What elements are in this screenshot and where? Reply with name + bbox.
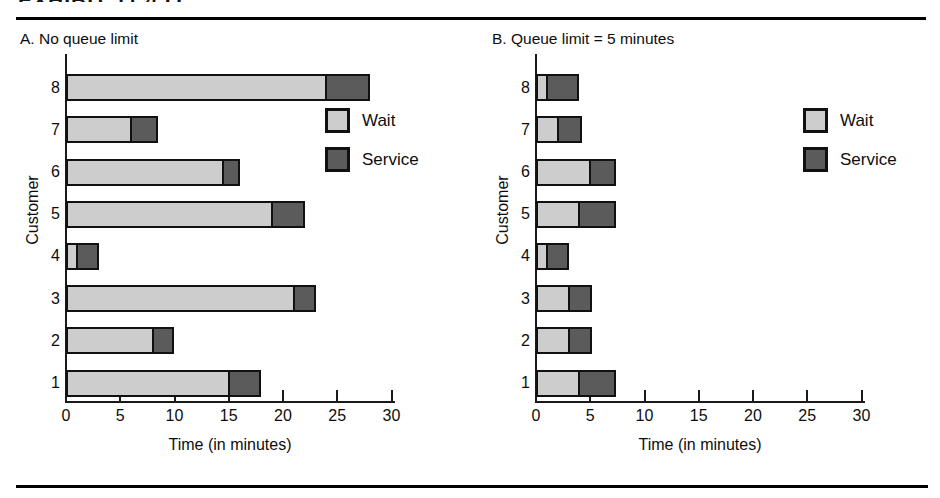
panel-a-x-tick-label-15: 15 [220, 407, 238, 425]
wait-swatch-icon [325, 108, 350, 133]
panel-a-service-segment-customer-2 [153, 327, 175, 354]
panel-b-service-segment-customer-4 [547, 243, 569, 270]
panel-b-service-segment-customer-7 [558, 116, 582, 143]
panel-a-x-tick-label-30: 30 [383, 407, 401, 425]
panel-b-wait-segment-customer-7 [536, 116, 558, 143]
panel-b-bar-row-customer-3 [470, 285, 870, 312]
header-text-fragment: EXHIBIT 11.4 Q [18, 0, 183, 2]
panel-a-x-tick-label-25: 25 [328, 407, 346, 425]
panel-b-wait-segment-customer-1 [536, 370, 579, 397]
service-swatch-icon [325, 147, 350, 172]
panel-b-legend-label-service: Service [840, 150, 897, 170]
panel-a-wait-segment-customer-6 [66, 159, 223, 186]
panel-a-x-tick-label-20: 20 [274, 407, 292, 425]
panel-b-bar-row-customer-5 [470, 201, 870, 228]
panel-a-service-segment-customer-3 [294, 285, 316, 312]
footer-divider-rule [16, 485, 928, 488]
panel-a-service-segment-customer-1 [229, 370, 262, 397]
panel-a-service-segment-customer-7 [131, 116, 158, 143]
panel-b-legend-label-wait: Wait [840, 111, 873, 131]
panel-a-x-axis-title: Time (in minutes) [65, 436, 395, 454]
panel-b-wait-segment-customer-3 [536, 285, 569, 312]
wait-swatch-icon [803, 108, 828, 133]
header-divider-rule [16, 17, 926, 20]
panel-b-service-segment-customer-8 [547, 74, 580, 101]
panel-a-bar-row-customer-5 [0, 201, 400, 228]
panel-a-x-tick-label-0: 0 [62, 407, 71, 425]
panel-a-bar-row-customer-2 [0, 327, 400, 354]
panel-a-plot-area: 12345678 Customer Time (in minutes) 0510… [0, 26, 470, 488]
panel-b-service-segment-customer-6 [590, 159, 616, 186]
panel-b-bar-row-customer-1 [470, 370, 870, 397]
panel-b-x-tick-label-0: 0 [532, 407, 541, 425]
panel-b-x-axis-title: Time (in minutes) [535, 436, 865, 454]
panel-b-legend: WaitService [803, 108, 897, 186]
panel-a-wait-segment-customer-2 [66, 327, 153, 354]
panel-b-x-tick-label-30: 30 [853, 407, 871, 425]
panel-b-wait-segment-customer-6 [536, 159, 590, 186]
panel-a-legend-item-service: Service [325, 147, 419, 172]
panel-a-wait-segment-customer-5 [66, 201, 272, 228]
panel-b-service-segment-customer-3 [569, 285, 593, 312]
header-band: EXHIBIT 11.4 Q [0, 0, 940, 26]
panel-a-x-axis [65, 401, 395, 403]
panel-a-legend-item-wait: Wait [325, 108, 419, 133]
panel-a-legend-label-wait: Wait [362, 111, 395, 131]
panel-b-x-axis [535, 401, 865, 403]
panel-a-wait-segment-customer-8 [66, 74, 326, 101]
panel-b-x-tick-label-5: 5 [586, 407, 595, 425]
panel-b-legend-item-service: Service [803, 147, 897, 172]
panel-b-wait-segment-customer-5 [536, 201, 579, 228]
panel-b-x-tick-label-25: 25 [798, 407, 816, 425]
panel-b-x-tick-label-15: 15 [690, 407, 708, 425]
panel-b-bar-row-customer-8 [470, 74, 870, 101]
panel-a-wait-segment-customer-4 [66, 243, 77, 270]
panel-b-plot-area: 12345678 Customer Time (in minutes) 0510… [470, 26, 940, 488]
panel-a-legend: WaitService [325, 108, 419, 186]
panel-b-service-segment-customer-2 [569, 327, 593, 354]
panel-b-x-tick-label-10: 10 [636, 407, 654, 425]
panel-b-bar-row-customer-2 [470, 327, 870, 354]
panel-a-wait-segment-customer-1 [66, 370, 229, 397]
panel-a-bar-row-customer-4 [0, 243, 400, 270]
panel-a-service-segment-customer-6 [223, 159, 239, 186]
panel-b-legend-item-wait: Wait [803, 108, 897, 133]
panel-b-wait-segment-customer-2 [536, 327, 569, 354]
panel-b-bar-row-customer-4 [470, 243, 870, 270]
panel-a-bar-row-customer-8 [0, 74, 400, 101]
panel-b-service-segment-customer-1 [579, 370, 616, 397]
chart-panel-b: B. Queue limit = 5 minutes 12345678 Cust… [470, 26, 940, 488]
panel-a-service-segment-customer-4 [77, 243, 99, 270]
panel-b-wait-segment-customer-4 [536, 243, 547, 270]
panel-a-legend-label-service: Service [362, 150, 419, 170]
panel-a-service-segment-customer-5 [272, 201, 305, 228]
panel-a-wait-segment-customer-3 [66, 285, 294, 312]
panel-b-wait-segment-customer-8 [536, 74, 547, 101]
panel-a-wait-segment-customer-7 [66, 116, 131, 143]
panel-a-bar-row-customer-1 [0, 370, 400, 397]
panel-a-x-tick-label-10: 10 [166, 407, 184, 425]
panel-b-x-tick-label-20: 20 [744, 407, 762, 425]
panel-a-x-tick-label-5: 5 [116, 407, 125, 425]
panel-a-bar-row-customer-3 [0, 285, 400, 312]
chart-panel-a: A. No queue limit 12345678 Customer Time… [0, 26, 470, 488]
panel-a-service-segment-customer-8 [326, 74, 369, 101]
panel-b-service-segment-customer-5 [579, 201, 616, 228]
service-swatch-icon [803, 147, 828, 172]
